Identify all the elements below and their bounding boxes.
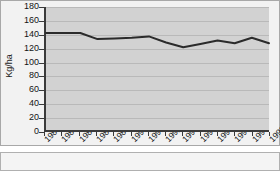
- y-axis-tick-label: 60: [5, 85, 39, 94]
- y-axis-tick-label: 0: [5, 127, 39, 136]
- plot-inner: [46, 7, 269, 130]
- y-axis-tick-label: 40: [5, 99, 39, 108]
- y-axis-tick-label: 120: [5, 44, 39, 53]
- chart-panel: Kg/ha 020406080100120140160180 198519861…: [0, 0, 280, 146]
- bottom-strip: [0, 152, 280, 171]
- y-axis-tick-label: 140: [5, 30, 39, 39]
- series-line-kg-per-ha: [46, 7, 269, 130]
- plot-area: [44, 7, 269, 132]
- chart-figure: Kg/ha 020406080100120140160180 198519861…: [0, 0, 280, 171]
- y-axis-tick-label: 20: [5, 113, 39, 122]
- y-axis-tick-label: 160: [5, 16, 39, 25]
- y-axis-tick-label: 100: [5, 58, 39, 67]
- y-axis-tick-label: 180: [5, 2, 39, 11]
- y-axis-tick-label: 80: [5, 71, 39, 80]
